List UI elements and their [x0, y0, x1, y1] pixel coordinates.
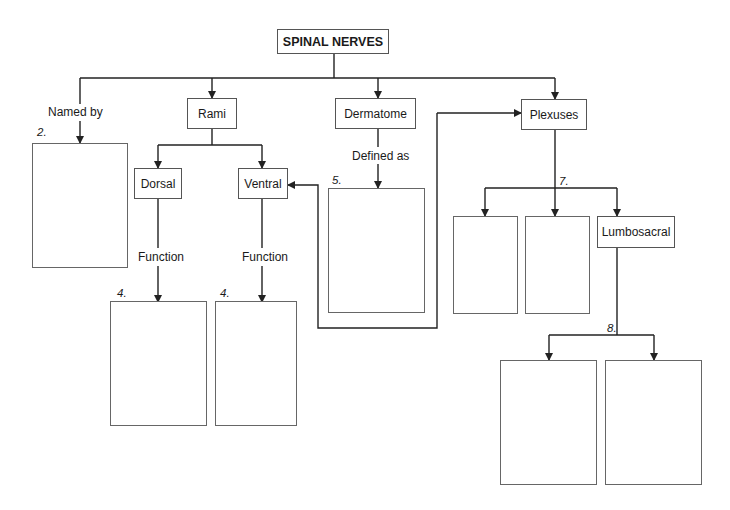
blank-box-dorsal-function[interactable] — [110, 301, 207, 426]
blank-box-dermatome[interactable] — [328, 188, 425, 313]
edge-label-defined-as: Defined as — [351, 149, 410, 163]
node-dorsal: Dorsal — [134, 168, 182, 199]
blank-number-4-dorsal: 4. — [117, 287, 127, 299]
node-rami: Rami — [187, 98, 237, 129]
node-dermatome: Dermatome — [335, 98, 416, 129]
edge-label-named-by: Named by — [47, 105, 104, 119]
blank-number-7: 7. — [559, 175, 569, 187]
edge-label-dorsal-function: Function — [137, 250, 185, 264]
blank-box-lumbosacral-1[interactable] — [500, 360, 597, 485]
node-ventral: Ventral — [238, 168, 288, 199]
edge-label-ventral-function: Function — [241, 250, 289, 264]
blank-box-plexus-2[interactable] — [525, 216, 590, 314]
blank-number-2: 2. — [37, 126, 47, 138]
node-plexuses: Plexuses — [521, 99, 587, 130]
blank-number-8: 8. — [607, 322, 617, 334]
blank-number-5: 5. — [332, 174, 342, 186]
blank-box-ventral-function[interactable] — [215, 301, 297, 426]
node-lumbosacral: Lumbosacral — [597, 216, 675, 248]
blank-box-named-by[interactable] — [32, 143, 128, 268]
blank-box-lumbosacral-2[interactable] — [605, 360, 702, 485]
blank-box-plexus-1[interactable] — [453, 216, 518, 314]
blank-number-4-ventral: 4. — [220, 287, 230, 299]
root-node-spinal-nerves: SPINAL NERVES — [277, 29, 389, 54]
